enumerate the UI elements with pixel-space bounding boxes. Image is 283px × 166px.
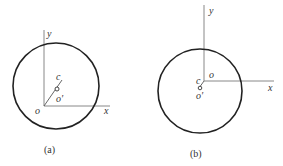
panel-b: y o c o′ x (b) (158, 5, 274, 160)
caption-b: (b) (190, 148, 202, 160)
center-point (55, 87, 59, 91)
y-label: y (208, 5, 214, 16)
diagram: y c o′ o x (a) y o c o′ x (b) (0, 0, 283, 166)
origin-label: o (35, 105, 40, 116)
c-label: c (196, 75, 201, 86)
x-label: x (267, 82, 273, 93)
c-label: c (56, 71, 61, 82)
disk-circle (13, 43, 99, 129)
panel-a: y c o′ o x (a) (13, 28, 110, 156)
caption-a: (a) (44, 144, 55, 156)
o-prime-label: o′ (56, 93, 64, 104)
y-label: y (46, 28, 52, 39)
origin-label: o (209, 69, 214, 80)
o-prime-label: o′ (196, 90, 204, 101)
x-label: x (103, 105, 109, 116)
